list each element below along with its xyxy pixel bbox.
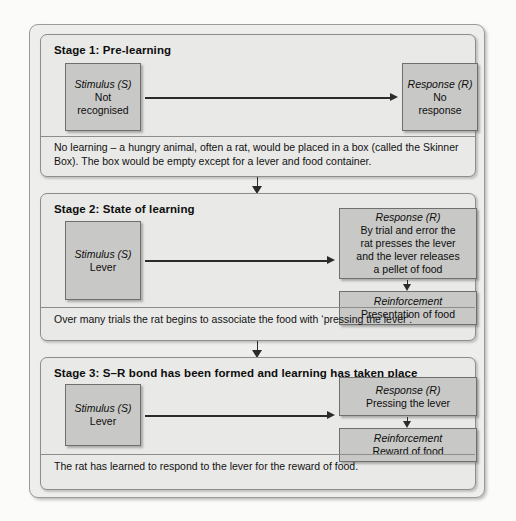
- stage-1-response-line-1: No: [433, 91, 446, 104]
- stage-2-response-to-reinforcement-arrow-icon: [403, 280, 412, 291]
- stage-3-reinforcement-box: Reinforcement Reward of food: [339, 428, 477, 462]
- arrow-head: [327, 411, 335, 419]
- arrow-shaft: [145, 260, 328, 262]
- stage-3-caption: The rat has learned to respond to the le…: [54, 460, 463, 474]
- stage-3-divider: [41, 454, 475, 455]
- stage-2-title: Stage 2: State of learning: [54, 203, 195, 215]
- diagram-outer-panel: Stage 1: Pre-learning Stimulus (S) Not r…: [29, 24, 485, 498]
- stage-3-response-header: Response (R): [376, 384, 441, 397]
- diagram-page: Stage 1: Pre-learning Stimulus (S) Not r…: [0, 0, 516, 521]
- stage-2-stimulus-line-1: Lever: [90, 261, 116, 274]
- stage-1-response-header: Response (R): [408, 78, 473, 91]
- stage-1-response-box: Response (R) No response: [402, 63, 478, 131]
- stage-2-to-stage-3-arrow-icon: [252, 341, 263, 358]
- stage-1-stimulus-header: Stimulus (S): [74, 78, 131, 91]
- stage-1-stimulus-line-1: Not: [95, 91, 111, 104]
- stage-3-response-box: Response (R) Pressing the lever: [339, 377, 477, 416]
- stage-2-response-line-4: a pellet of food: [374, 263, 443, 276]
- stage-2-stimulus-to-response-arrow-icon: [145, 256, 335, 265]
- stage-1-caption: No learning – a hungry animal, often a r…: [54, 141, 463, 168]
- stage-1-divider: [41, 136, 475, 137]
- stage-2-response-line-2: rat presses the lever: [360, 237, 455, 250]
- stage-1-stimulus-line-2: recognised: [77, 104, 128, 117]
- stage-2-stimulus-box: Stimulus (S) Lever: [65, 221, 141, 300]
- stage-3-response-to-reinforcement-arrow-icon: [403, 417, 412, 428]
- stage-1-response-line-2: response: [418, 104, 461, 117]
- stage-2-response-line-1: By trial and error the: [360, 224, 455, 237]
- arrow-head: [390, 93, 398, 101]
- stage-1-to-stage-2-arrow-icon: [252, 177, 263, 194]
- stage-3-stimulus-to-response-arrow-icon: [145, 411, 335, 420]
- stage-3-response-line-1: Pressing the lever: [366, 397, 450, 410]
- stage-3-reinforcement-header: Reinforcement: [374, 432, 442, 445]
- arrow-head: [403, 421, 411, 428]
- stage-1-block: Stage 1: Pre-learning Stimulus (S) Not r…: [40, 34, 476, 177]
- stage-2-block: Stage 2: State of learning Stimulus (S) …: [40, 193, 476, 341]
- stage-3-stimulus-box: Stimulus (S) Lever: [65, 384, 141, 446]
- arrow-shaft: [145, 97, 391, 99]
- arrow-shaft: [145, 415, 328, 417]
- stage-1-title: Stage 1: Pre-learning: [54, 44, 171, 56]
- arrow-head: [327, 256, 335, 264]
- stage-2-stimulus-header: Stimulus (S): [74, 248, 131, 261]
- stage-2-caption: Over many trials the rat begins to assoc…: [54, 313, 463, 327]
- stage-2-response-line-3: and the lever releases: [356, 250, 459, 263]
- stage-1-stimulus-box: Stimulus (S) Not recognised: [65, 63, 141, 131]
- stage-2-response-box: Response (R) By trial and error the rat …: [339, 208, 477, 279]
- stage-1-stimulus-to-response-arrow-icon: [145, 93, 398, 102]
- arrow-head: [403, 284, 411, 291]
- stage-3-stimulus-line-1: Lever: [90, 415, 116, 428]
- stage-2-response-header: Response (R): [376, 211, 441, 224]
- stage-3-reinforcement-line-1: Reward of food: [372, 445, 443, 458]
- stage-2-divider: [41, 307, 475, 308]
- stage-3-stimulus-header: Stimulus (S): [74, 402, 131, 415]
- stage-3-block: Stage 3: S–R bond has been formed and le…: [40, 357, 476, 490]
